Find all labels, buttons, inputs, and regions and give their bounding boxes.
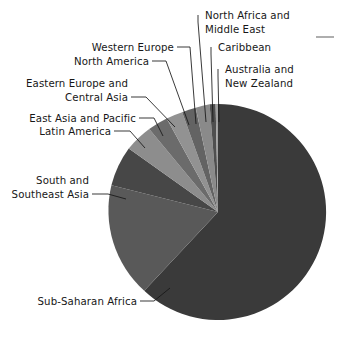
label-eastern-europe-and-central-asia-line1: Eastern Europe and: [26, 78, 128, 89]
pie-slices: [108, 104, 326, 320]
label-eastern-europe-and-central-asia-line2: Central Asia: [65, 92, 128, 103]
label-south-and-southeast-asia-line1: South and: [36, 175, 89, 186]
label-latin-america: Latin America: [39, 126, 111, 137]
label-south-and-southeast-asia-line2: Southeast Asia: [12, 189, 89, 200]
label-western-europe: Western Europe: [92, 42, 174, 53]
label-east-asia-and-pacific: East Asia and Pacific: [29, 113, 136, 124]
label-north-africa-and-middle-east-line2: Middle East: [205, 24, 265, 35]
label-sub-saharan-africa: Sub-Saharan Africa: [38, 296, 137, 307]
label-north-america: North America: [74, 56, 149, 67]
pie-chart-canvas: Sub-Saharan Africa South and Southeast A…: [0, 0, 342, 348]
label-australia-and-new-zealand-line2: New Zealand: [225, 78, 293, 89]
label-caribbean: Caribbean: [218, 42, 271, 53]
label-north-africa-and-middle-east-line1: North Africa and: [205, 10, 290, 21]
label-australia-and-new-zealand-line1: Australia and: [225, 64, 294, 75]
pie-chart-figure: Sub-Saharan Africa South and Southeast A…: [0, 0, 342, 348]
